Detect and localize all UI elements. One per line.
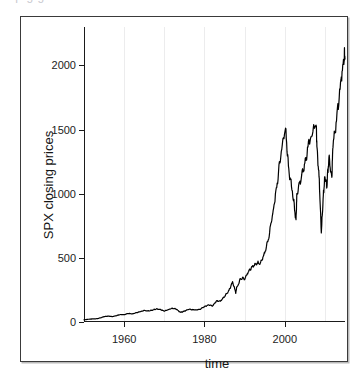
figure-frame: 0500100015002000 196019802000 SPX closin… [20,16,348,362]
x-tick-label: 1980 [192,333,216,345]
x-tick-label: 1960 [112,333,136,345]
y-tick-mark [79,322,84,323]
y-tick-label: 500 [58,252,76,264]
data-series-spx [84,27,345,322]
plot-area: 0500100015002000 196019802000 [84,27,345,322]
bleed-text: a p g g [4,0,45,3]
x-tick-mark [285,322,286,327]
y-tick-label: 0 [70,316,76,328]
x-axis-label: time [205,356,230,371]
x-tick-mark [204,322,205,327]
y-tick-label: 2000 [52,59,76,71]
x-tick-mark [124,322,125,327]
y-axis-label: SPX closing prices [41,131,56,239]
page-bleed-strip: a p g g [0,0,364,10]
x-tick-label: 2000 [273,333,297,345]
